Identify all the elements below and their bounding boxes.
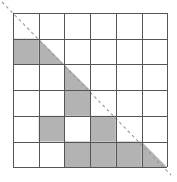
- triangle-cell: [142, 142, 168, 168]
- filled-cell: [39, 116, 65, 142]
- filled-cell: [13, 39, 39, 65]
- filled-cell: [116, 142, 142, 168]
- figure-root: [0, 0, 177, 182]
- filled-cell: [64, 142, 90, 168]
- filled-cell: [64, 90, 90, 116]
- filled-cell: [90, 142, 116, 168]
- triangle-cell: [64, 64, 90, 90]
- triangle-cell: [39, 39, 65, 65]
- filled-cell: [90, 116, 116, 142]
- grid-diagram: [0, 0, 177, 182]
